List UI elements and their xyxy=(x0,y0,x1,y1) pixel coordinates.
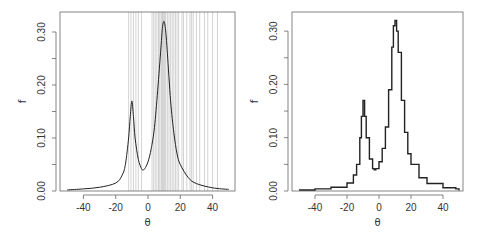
chart-figure: -40-2002040θ0.000.100.200.30f -40-200204… xyxy=(0,0,481,235)
y-tick-label: 0.00 xyxy=(268,181,279,201)
y-tick-label: 0.10 xyxy=(36,128,47,148)
rug-lines xyxy=(129,12,218,191)
y-tick-label: 0.30 xyxy=(268,21,279,41)
x-tick-label: 0 xyxy=(376,202,382,213)
left-panel: -40-2002040θ0.000.100.200.30f xyxy=(17,12,235,228)
x-tick-label: -20 xyxy=(108,202,123,213)
plot-box xyxy=(292,12,463,191)
y-tick-label: 0.20 xyxy=(36,75,47,95)
x-tick-label: 20 xyxy=(405,202,417,213)
y-axis: 0.000.100.200.30f xyxy=(17,22,56,201)
x-axis-label: θ xyxy=(144,217,150,228)
y-tick-label: 0.20 xyxy=(268,74,279,94)
x-tick-label: 20 xyxy=(175,202,187,213)
y-axis-label: f xyxy=(17,99,28,103)
y-tick-label: 0.10 xyxy=(268,128,279,148)
x-tick-label: 40 xyxy=(207,202,219,213)
y-axis-label: f xyxy=(249,99,260,103)
x-axis: -40-2002040θ xyxy=(308,195,449,228)
y-tick-label: 0.00 xyxy=(36,181,47,201)
x-axis-label: θ xyxy=(374,217,380,228)
right-panel: -40-2002040θ0.000.100.200.30f xyxy=(249,12,463,228)
x-tick-label: -20 xyxy=(340,202,355,213)
y-axis: 0.000.100.200.30f xyxy=(249,21,288,201)
x-tick-label: -40 xyxy=(308,202,323,213)
density-curve xyxy=(299,20,459,190)
x-tick-label: -40 xyxy=(76,202,91,213)
x-axis: -40-2002040θ xyxy=(76,195,218,228)
x-tick-label: 0 xyxy=(145,202,151,213)
x-tick-label: 40 xyxy=(437,202,449,213)
y-tick-label: 0.30 xyxy=(36,22,47,42)
